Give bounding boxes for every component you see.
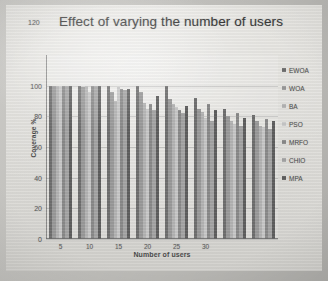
y-axis-tick: 60 [34,144,42,151]
x-axis-tick: 10 [86,243,93,250]
x-axis-tick: 25 [173,243,180,250]
bar-group [165,55,188,239]
legend-label: MRFO [289,139,308,146]
x-axis-tick: 30 [202,243,209,250]
legend-swatch-icon [282,86,286,90]
bar [214,110,217,239]
chart-title: Effect of varying the number of users [46,14,296,29]
legend-item: MRFO [282,133,322,151]
legend-swatch-icon [282,140,286,144]
legend-label: WOA [289,85,305,92]
legend-swatch-icon [282,158,286,162]
bar [127,89,130,239]
bar [69,86,72,239]
legend-item: BA [282,97,322,115]
legend-swatch-icon [282,68,286,72]
y-axis-tick: 80 [34,113,42,120]
chart-legend: EWOAWOABAPSOMRFOCHIOMPA [282,61,322,187]
legend-label: MPA [289,175,303,182]
legend-item: EWOA [282,61,322,79]
plot-area: 020406080100 51015202530 [46,55,278,239]
legend-label: CHIO [289,157,305,164]
y-axis-line [46,55,47,239]
legend-item: PSO [282,115,322,133]
y-axis-tick: 20 [34,205,42,212]
y-axis-tick: 0 [38,236,42,243]
x-axis-line [46,238,278,239]
x-axis-label: Number of users [46,251,278,258]
bar-group [78,55,101,239]
x-axis-tick: 15 [115,243,122,250]
bar-group [252,55,275,239]
legend-swatch-icon [282,122,286,126]
bar [98,86,101,239]
bar [272,121,275,239]
bar-group [107,55,130,239]
y-axis-label: Coverage % [30,118,37,157]
gridline [46,239,278,240]
legend-label: PSO [289,121,303,128]
bar [243,118,246,239]
bar-group [223,55,246,239]
bar [156,96,159,239]
y-axis-tick-top: 120 [28,19,40,26]
legend-swatch-icon [282,176,286,180]
bar-group [49,55,72,239]
x-axis-tick: 20 [144,243,151,250]
legend-swatch-icon [282,104,286,108]
bar-group [136,55,159,239]
photo-frame: Effect of varying the number of users 12… [0,0,328,281]
legend-item: MPA [282,169,322,187]
legend-label: BA [289,103,298,110]
legend-item: CHIO [282,151,322,169]
bar-chart: Effect of varying the number of users 12… [6,5,322,271]
legend-item: WOA [282,79,322,97]
legend-label: EWOA [289,67,309,74]
x-axis-tick: 5 [59,243,63,250]
y-axis-tick: 40 [34,174,42,181]
bar-group [194,55,217,239]
bar [185,106,188,239]
y-axis-tick: 100 [30,82,42,89]
